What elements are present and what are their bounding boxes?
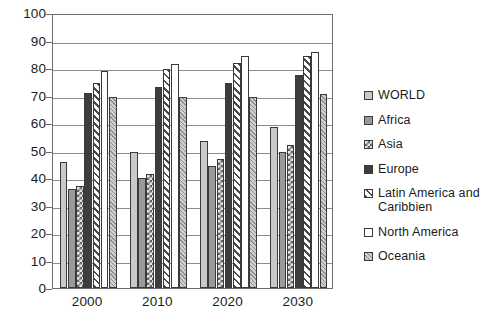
- bar: [233, 63, 241, 289]
- bar: [270, 127, 278, 288]
- y-tick-label: 70: [0, 90, 46, 104]
- legend-item: North America: [364, 225, 492, 239]
- y-tick-label: 0: [0, 282, 46, 296]
- bar: [200, 141, 208, 288]
- y-tick-label: 60: [0, 117, 46, 131]
- bar: [76, 186, 84, 288]
- bar: [241, 56, 249, 288]
- bar: [155, 87, 163, 288]
- legend-item: Africa: [364, 113, 492, 127]
- bar: [146, 174, 154, 288]
- y-tick-label: 80: [0, 62, 46, 76]
- y-tick-label: 90: [0, 35, 46, 49]
- bar: [109, 97, 117, 288]
- legend-item: Latin America and Caribbien: [364, 186, 492, 214]
- y-tick-label: 50: [0, 145, 46, 159]
- y-tick-label: 40: [0, 172, 46, 186]
- x-tick-label: 2000: [52, 294, 122, 310]
- y-tick-label: 10: [0, 255, 46, 269]
- bar: [295, 75, 303, 288]
- bar: [287, 145, 295, 288]
- x-tick-label: 2030: [263, 294, 333, 310]
- bar: [311, 52, 319, 289]
- bar: [249, 97, 257, 288]
- x-tick-label: 2010: [122, 294, 192, 310]
- legend-item-label: Asia: [378, 137, 403, 151]
- legend-item: WORLD: [364, 88, 492, 102]
- y-axis: 1009080706050403020100: [0, 0, 46, 319]
- legend-swatch-icon: [364, 116, 373, 125]
- legend-item: Oceania: [364, 249, 492, 263]
- bar: [217, 159, 225, 288]
- bar: [208, 166, 216, 288]
- x-tick-label: 2020: [193, 294, 263, 310]
- bar: [138, 178, 146, 288]
- bar: [171, 64, 179, 288]
- legend-item-label: Latin America and Caribbien: [378, 186, 492, 214]
- legend: WORLDAfricaAsiaEuropeLatin America and C…: [364, 88, 492, 274]
- legend-swatch-icon: [364, 165, 373, 174]
- bar: [60, 162, 68, 289]
- y-tick-label: 100: [0, 7, 46, 21]
- plot-area: [52, 14, 333, 289]
- bar: [320, 94, 328, 288]
- legend-swatch-icon: [364, 252, 373, 261]
- bar: [225, 83, 233, 288]
- bar: [101, 71, 109, 288]
- legend-item-label: WORLD: [378, 88, 425, 102]
- bar: [279, 152, 287, 288]
- legend-item: Europe: [364, 162, 492, 176]
- legend-item-label: Africa: [378, 113, 411, 127]
- bar: [84, 93, 92, 288]
- y-tick-label: 30: [0, 200, 46, 214]
- bar: [130, 152, 138, 288]
- legend-item-label: North America: [378, 225, 459, 239]
- bar: [163, 69, 171, 288]
- legend-swatch-icon: [364, 189, 373, 198]
- bar: [68, 189, 76, 288]
- bar: [179, 97, 187, 288]
- bars-layer: [53, 15, 332, 288]
- legend-swatch-icon: [364, 140, 373, 149]
- bar: [303, 56, 311, 288]
- bar-chart: 1009080706050403020100 2000201020202030 …: [0, 0, 495, 319]
- legend-item-label: Oceania: [378, 249, 425, 263]
- legend-swatch-icon: [364, 91, 373, 100]
- legend-swatch-icon: [364, 228, 373, 237]
- legend-item-label: Europe: [378, 162, 419, 176]
- y-tick-mark: [46, 289, 52, 290]
- x-axis: 2000201020202030: [52, 294, 333, 318]
- bar: [93, 83, 101, 288]
- y-tick-label: 20: [0, 227, 46, 241]
- legend-item: Asia: [364, 137, 492, 151]
